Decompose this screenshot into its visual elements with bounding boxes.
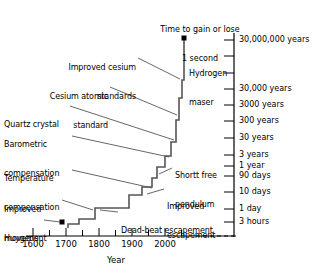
annotation-line-2: maser xyxy=(189,98,235,108)
ytick-label-30000-years: 30,000 years xyxy=(239,84,292,93)
leader-temperature-compensation xyxy=(72,170,152,188)
xtick-label-1800: 1800 xyxy=(81,239,117,249)
annotation-line-1: Dead-beat escapement xyxy=(121,226,227,236)
ytick-label-1-day: 1 day xyxy=(239,204,261,213)
ytick-label-90-days: 90 days xyxy=(239,171,271,180)
annotation-line-1: Hydrogen xyxy=(189,69,235,79)
ytick-label-3-years: 3 years xyxy=(239,150,269,159)
x-axis-title: Year xyxy=(86,255,146,265)
ytick-label-30000000-years: 30,000,000 years xyxy=(239,35,309,44)
annotation-line-1: Improved xyxy=(4,205,66,215)
clock-accuracy-chart: Time to gain or lose 1 second 30,000,000… xyxy=(0,0,328,273)
leader-shortt-free-pendulum xyxy=(159,168,172,174)
ytick-label-1-year: 1 year xyxy=(239,161,264,170)
ytick-label-300-years: 300 years xyxy=(239,116,279,125)
annotation-dead-beat-escapement: Dead-beat escapement xyxy=(121,207,227,255)
leader-dead-beat-escapement xyxy=(100,210,118,212)
annotation-line-1: Improved cesium xyxy=(52,63,136,73)
ytick-label-30-years: 30 years xyxy=(239,133,274,142)
ytick-label-10-days: 10 days xyxy=(239,187,271,196)
annotation-hydrogen-maser: Hydrogen maser xyxy=(189,50,235,126)
ytick-label-3000-years: 3000 years xyxy=(239,100,284,109)
annotation-line-1: Shortt free xyxy=(175,171,229,181)
annotation-huygens: Huygens xyxy=(4,215,48,263)
annotation-line-1: Huygens xyxy=(4,234,48,244)
annotation-line-1: Barometric xyxy=(4,140,78,150)
leader-improved-escapement xyxy=(147,189,164,194)
annotation-line-1: Temperature xyxy=(4,174,78,184)
y-axis-header-line1: Time to gain or lose xyxy=(152,25,248,35)
ytick-label-3-hours: 3 hours xyxy=(239,217,269,226)
